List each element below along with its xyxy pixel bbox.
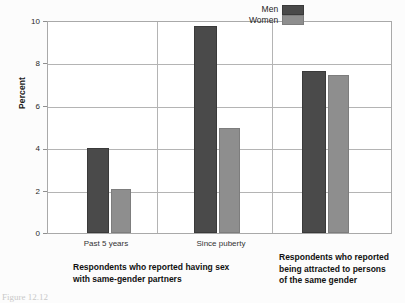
legend-label-women: Women — [249, 15, 278, 26]
legend-swatches — [282, 5, 304, 25]
legend-label-men: Men — [262, 4, 279, 15]
legend-swatch-women — [282, 15, 304, 25]
caption-right-line2: being attracted to persons — [279, 264, 401, 276]
y-tick-label-10: 10 — [18, 17, 40, 26]
group-separator-2 — [272, 22, 273, 233]
y-tick-label-8: 8 — [18, 59, 40, 68]
group-separator-1 — [157, 22, 158, 233]
x-tick-label-since-puberty: Since puberty — [178, 239, 264, 248]
bar-women-since-puberty — [219, 128, 240, 234]
group-caption-sex-partners: Respondents who reported having sex with… — [73, 262, 273, 285]
y-tick-label-2: 2 — [18, 187, 40, 196]
bar-women-past-5-years — [111, 189, 131, 233]
bar-men-past-5-years — [87, 148, 109, 233]
figure-container: Percent 10 8 6 4 2 0 Men Women — [0, 0, 405, 303]
caption-left-line2: with same-gender partners — [73, 274, 273, 286]
legend: Men Women — [249, 4, 304, 26]
y-tick-label-6: 6 — [18, 102, 40, 111]
legend-swatch-men — [282, 5, 304, 15]
caption-right-line3: of the same gender — [279, 275, 401, 287]
bar-women-attracted — [328, 75, 349, 233]
figure-caption: Figure 12.12 — [2, 292, 48, 303]
caption-left-line1: Respondents who reported having sex — [73, 262, 273, 274]
y-axis-title: Percent — [17, 65, 27, 121]
bar-men-since-puberty — [194, 26, 217, 233]
legend-labels: Men Women — [249, 4, 278, 26]
y-tick-label-0: 0 — [18, 229, 40, 238]
plot-area — [47, 21, 392, 234]
gridline-8 — [48, 64, 391, 65]
y-tick-label-4: 4 — [18, 144, 40, 153]
x-tick-label-past-5-years: Past 5 years — [63, 239, 149, 248]
caption-right-line1: Respondents who reported — [279, 252, 401, 264]
bar-men-attracted — [302, 71, 326, 233]
group-caption-attraction: Respondents who reported being attracted… — [279, 252, 401, 287]
